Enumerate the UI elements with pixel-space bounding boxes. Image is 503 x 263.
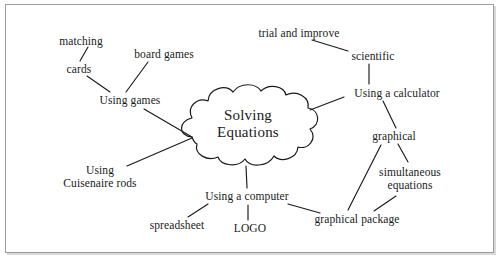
edge-using-calculator-to-graphical bbox=[383, 101, 396, 128]
node-label-simultaneous-eq-line2: equations bbox=[388, 179, 433, 191]
node-label-using-cuisenaire-line1: Using bbox=[86, 164, 114, 176]
node-label-graphical-package: graphical package bbox=[314, 213, 399, 226]
node-label-using-games: Using games bbox=[100, 94, 161, 107]
node-label-simultaneous-eq: simultaneousequations bbox=[379, 166, 441, 192]
node-label-logo: LOGO bbox=[234, 222, 266, 235]
edge-graphical-to-graphical-package bbox=[348, 145, 381, 210]
node-label-trial-and-improve: trial and improve bbox=[259, 27, 340, 40]
node-label-using-calculator: Using a calculator bbox=[354, 87, 439, 100]
central-node-line2: Equations bbox=[217, 124, 279, 140]
node-label-graphical: graphical bbox=[372, 130, 416, 143]
central-node-line1: Solving bbox=[224, 107, 272, 123]
node-label-matching: matching bbox=[59, 35, 103, 48]
node-label-using-cuisenaire: UsingCuisenaire rods bbox=[63, 164, 136, 190]
node-label-cards: cards bbox=[67, 63, 92, 76]
edge-board-games-to-using-games bbox=[126, 62, 148, 92]
edge-simultaneous-eq-to-graphical-package bbox=[374, 196, 396, 211]
node-label-using-computer: Using a computer bbox=[205, 190, 288, 203]
node-label-scientific: scientific bbox=[351, 50, 394, 63]
edge-cards-to-using-games bbox=[87, 76, 110, 92]
edge-trial-and-improve-to-scientific bbox=[312, 40, 348, 51]
node-label-spreadsheet: spreadsheet bbox=[150, 219, 205, 232]
edge-solving-equations-to-using-calculator bbox=[310, 97, 344, 110]
node-label-using-cuisenaire-line2: Cuisenaire rods bbox=[63, 177, 136, 189]
edge-matching-to-cards bbox=[80, 47, 88, 61]
edge-using-cuisenaire-to-solving-equations bbox=[127, 138, 192, 166]
edge-graphical-to-simultaneous-eq bbox=[398, 144, 408, 162]
node-label-simultaneous-eq-line1: simultaneous bbox=[379, 166, 441, 178]
central-node-label: SolvingEquations bbox=[217, 107, 279, 141]
edge-solving-equations-to-using-computer bbox=[246, 166, 247, 188]
mind-map-canvas: SolvingEquations matchingcardsboard game… bbox=[0, 0, 503, 263]
node-label-board-games: board games bbox=[134, 48, 194, 61]
edge-using-computer-to-spreadsheet bbox=[188, 204, 208, 217]
